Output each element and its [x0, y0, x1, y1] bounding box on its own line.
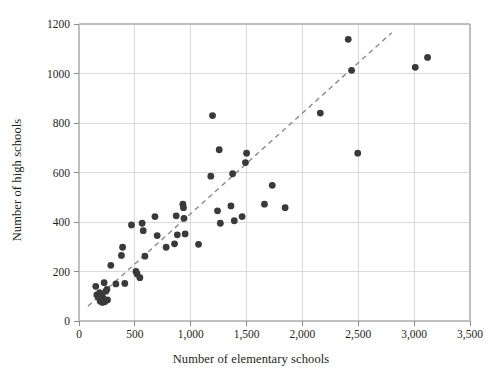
x-tick-label: 3,000: [401, 328, 427, 341]
data-point: [424, 54, 431, 61]
data-point: [92, 283, 99, 290]
x-tick-label: 2,500: [345, 328, 371, 341]
data-point: [171, 240, 178, 247]
y-tick-label: 1200: [47, 18, 70, 30]
data-point: [128, 222, 135, 229]
data-point: [180, 204, 187, 211]
data-point: [195, 241, 202, 248]
data-point: [207, 173, 214, 180]
data-point: [345, 36, 352, 43]
data-point: [214, 207, 221, 214]
scatter-chart-figure: 020040060080010001200 05001,0001,5002,00…: [0, 0, 502, 382]
y-tick-label: 400: [53, 216, 71, 228]
data-point: [174, 231, 181, 238]
x-axis-title: Number of elementary schools: [0, 352, 502, 367]
data-point: [136, 274, 143, 281]
data-point: [142, 253, 149, 260]
data-point: [140, 227, 147, 234]
y-tick-label: 0: [64, 315, 70, 327]
data-point: [239, 213, 246, 220]
x-tick-label: 3,500: [457, 328, 483, 341]
data-point: [216, 146, 223, 153]
data-point: [354, 150, 361, 157]
x-tick-label: 2,000: [289, 328, 315, 341]
data-point: [317, 110, 324, 117]
data-point: [229, 170, 236, 177]
y-axis-tick-labels: 020040060080010001200: [47, 18, 70, 327]
x-tick-label: 1,000: [178, 328, 204, 341]
data-point: [412, 64, 419, 71]
y-axis-title: Number of high schools: [10, 70, 25, 290]
y-tick-label: 200: [53, 266, 71, 278]
plot-canvas: 020040060080010001200 05001,0001,5002,00…: [0, 0, 502, 382]
data-point: [261, 201, 268, 208]
data-point: [269, 182, 276, 189]
data-point: [242, 159, 249, 166]
y-tick-label: 800: [53, 117, 71, 129]
data-point: [112, 280, 119, 287]
data-point: [104, 286, 111, 293]
data-points-group: [92, 36, 431, 306]
data-point: [182, 230, 189, 237]
data-point: [107, 262, 114, 269]
data-point: [101, 279, 108, 286]
data-point: [121, 280, 128, 287]
data-point: [119, 244, 126, 251]
data-point: [209, 112, 216, 119]
data-point: [104, 297, 111, 304]
data-point: [139, 220, 146, 227]
tickmarks-group: [74, 24, 470, 326]
data-point: [231, 217, 238, 224]
y-tick-label: 1000: [47, 68, 70, 80]
data-point: [152, 213, 159, 220]
data-point: [243, 150, 250, 157]
data-point: [228, 203, 235, 210]
data-point: [173, 212, 180, 219]
data-point: [217, 220, 224, 227]
x-axis-tick-labels: 05001,0001,5002,0002,5003,0003,500: [76, 328, 483, 341]
x-tick-label: 0: [76, 328, 82, 340]
data-point: [118, 252, 125, 259]
x-tick-label: 1,500: [234, 328, 260, 341]
y-tick-label: 600: [53, 167, 71, 179]
data-point: [181, 215, 188, 222]
data-point: [154, 232, 161, 239]
data-point: [348, 67, 355, 74]
data-point: [163, 244, 170, 251]
data-point: [282, 204, 289, 211]
x-tick-label: 500: [126, 328, 144, 340]
